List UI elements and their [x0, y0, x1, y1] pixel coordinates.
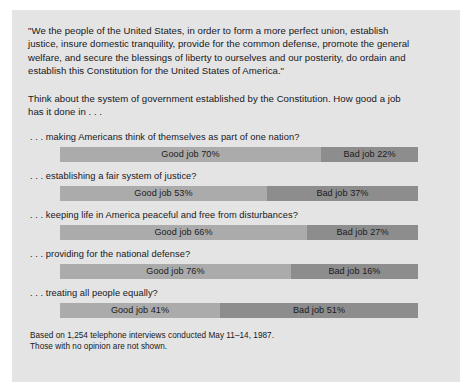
poll-card-content: "We the people of the United States, in …	[28, 24, 446, 372]
list-item: . . . establishing a fair system of just…	[28, 170, 446, 201]
bar-segment-bad-label: Bad job 22%	[343, 150, 395, 159]
question-label: . . . providing for the national defense…	[28, 248, 446, 260]
bar-segment-good: Good job 41%	[60, 303, 220, 318]
bar-segment-bad-label: Bad job 37%	[316, 189, 368, 198]
bar-segment-good: Good job 76%	[60, 264, 291, 279]
source-note-line-1: Based on 1,254 telephone interviews cond…	[30, 330, 446, 341]
question-label: . . . establishing a fair system of just…	[28, 170, 446, 182]
page-root: "We the people of the United States, in …	[0, 0, 472, 392]
bar-segment-good-label: Good job 70%	[161, 150, 219, 159]
question-label: . . . keeping life in America peaceful a…	[28, 209, 446, 221]
bar-segment-good: Good job 70%	[60, 147, 321, 162]
stacked-bar: Good job 66% Bad job 27%	[60, 225, 418, 240]
question-label: . . . treating all people equally?	[28, 287, 446, 299]
stacked-bar: Good job 41% Bad job 51%	[60, 303, 418, 318]
bar-segment-good-label: Good job 41%	[111, 306, 169, 315]
survey-prompt: Think about the system of government est…	[28, 92, 410, 119]
bar-segment-bad: Bad job 51%	[220, 303, 418, 318]
bar-segment-good-label: Good job 76%	[146, 267, 204, 276]
source-note: Based on 1,254 telephone interviews cond…	[28, 330, 446, 352]
constitution-preamble-quote: "We the people of the United States, in …	[28, 24, 410, 77]
bar-segment-bad: Bad job 27%	[307, 225, 418, 240]
stacked-bar: Good job 76% Bad job 16%	[60, 264, 418, 279]
bar-segment-bad: Bad job 37%	[267, 186, 418, 201]
stacked-bar: Good job 70% Bad job 22%	[60, 147, 418, 162]
bar-segment-good: Good job 66%	[60, 225, 307, 240]
bar-segment-good: Good job 53%	[60, 186, 267, 201]
stacked-bar: Good job 53% Bad job 37%	[60, 186, 418, 201]
list-item: . . . treating all people equally? Good …	[28, 287, 446, 318]
list-item: . . . making Americans think of themselv…	[28, 131, 446, 162]
bar-segment-bad-label: Bad job 16%	[328, 267, 380, 276]
bar-segment-good-label: Good job 66%	[154, 228, 212, 237]
survey-results-list: . . . making Americans think of themselv…	[28, 131, 446, 318]
list-item: . . . keeping life in America peaceful a…	[28, 209, 446, 240]
bar-segment-bad: Bad job 22%	[321, 147, 418, 162]
bar-segment-bad-label: Bad job 27%	[336, 228, 388, 237]
bar-segment-good-label: Good job 53%	[134, 189, 192, 198]
question-label: . . . making Americans think of themselv…	[28, 131, 446, 143]
poll-card: "We the people of the United States, in …	[12, 10, 460, 382]
bar-segment-bad-label: Bad job 51%	[293, 306, 345, 315]
list-item: . . . providing for the national defense…	[28, 248, 446, 279]
bar-segment-bad: Bad job 16%	[291, 264, 418, 279]
source-note-line-2: Those with no opinion are not shown.	[30, 341, 446, 352]
